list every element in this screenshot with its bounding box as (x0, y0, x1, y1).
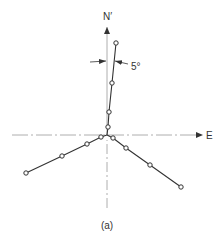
data-point (107, 110, 111, 114)
data-point (99, 135, 103, 139)
southwest-branch (24, 135, 107, 175)
north-axis-label: N′ (103, 11, 112, 22)
east-axis-label: E (206, 130, 213, 141)
data-point (85, 142, 89, 146)
data-point (179, 185, 183, 189)
data-point (110, 81, 114, 85)
north-branch (106, 41, 118, 135)
southeast-branch (107, 135, 183, 189)
data-point (148, 163, 152, 167)
diagram-canvas: N′ E 5° (a) (0, 0, 224, 245)
data-point (114, 41, 118, 45)
figure-caption: (a) (101, 220, 113, 231)
data-point (24, 171, 28, 175)
data-point (111, 136, 115, 140)
data-point (106, 125, 110, 129)
angle-label: 5° (131, 61, 141, 72)
data-point (60, 154, 64, 158)
data-point (124, 146, 128, 150)
angle-annotation: 5° (90, 61, 141, 72)
